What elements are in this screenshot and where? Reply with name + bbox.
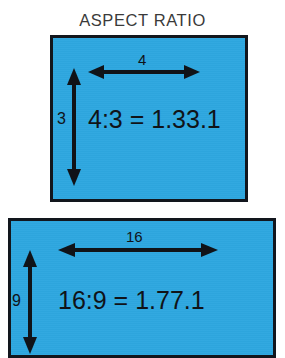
width-label-16: 16 — [126, 229, 143, 244]
vertical-double-arrow-9 — [20, 250, 40, 349]
height-label-3: 3 — [57, 111, 66, 127]
width-label-4: 4 — [138, 52, 146, 67]
height-label-9: 9 — [12, 293, 21, 309]
ratio-text-4-3: 4:3 = 1.33.1 — [88, 107, 221, 132]
vertical-double-arrow-3 — [64, 68, 84, 186]
ratio-text-16-9: 16:9 = 1.77.1 — [58, 288, 205, 313]
page-title: ASPECT RATIO — [0, 11, 285, 30]
